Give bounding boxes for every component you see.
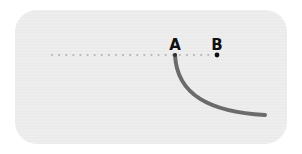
curve-path [175,55,265,115]
diagram-stage: A B [0,0,302,154]
diagram-canvas: A B [0,0,302,154]
point-a-label: A [169,36,181,54]
point-b-label: B [211,36,222,54]
